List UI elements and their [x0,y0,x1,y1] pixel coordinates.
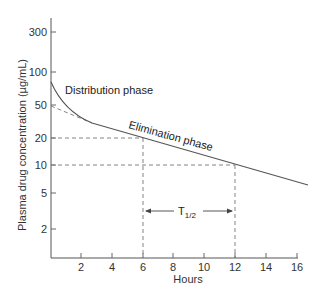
pk-chart: 300 100 50 20 10 5 2 2 4 6 8 10 12 14 16… [0,0,324,299]
x-tick-10: 10 [198,261,210,273]
y-tick-300: 300 [29,26,47,38]
y-tick-50: 50 [35,99,47,111]
x-tick-labels: 2 4 6 8 10 12 14 16 [78,261,303,273]
x-ticks [81,253,297,258]
x-axis-title: Hours [173,273,203,285]
y-tick-5: 5 [41,187,47,199]
distribution-phase-label: Distribution phase [65,84,153,96]
y-axis-title: Plasma drug concentration (µg/mL) [16,59,28,231]
half-life-label: T1/2 [178,205,196,220]
elimination-phase-label: Elimination phase [127,118,214,153]
x-tick-6: 6 [140,261,146,273]
x-tick-4: 4 [109,261,115,273]
y-tick-100: 100 [29,66,47,78]
y-tick-10: 10 [35,159,47,171]
y-tick-labels: 300 100 50 20 10 5 2 [29,26,47,235]
x-tick-12: 12 [229,261,241,273]
x-tick-2: 2 [78,261,84,273]
x-tick-14: 14 [260,261,272,273]
y-tick-2: 2 [41,223,47,235]
x-tick-16: 16 [291,261,303,273]
y-ticks [51,32,56,229]
x-tick-8: 8 [170,261,176,273]
y-tick-20: 20 [35,132,47,144]
